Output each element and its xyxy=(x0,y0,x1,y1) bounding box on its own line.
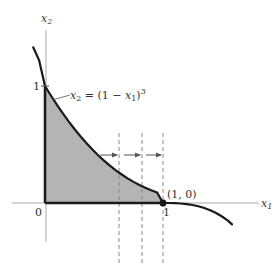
x-axis-label: x1 xyxy=(261,197,272,211)
y-axis-label: x2 xyxy=(41,12,52,26)
shaded-region xyxy=(45,86,163,203)
diagram: x2 x1 0 1 1 (1, 0) x2 = (1 − x1)3 xyxy=(0,0,280,274)
point-label: (1, 0) xyxy=(167,188,197,201)
x-tick-label: 1 xyxy=(163,206,170,219)
y-tick-label: 1 xyxy=(33,80,40,93)
origin-label: 0 xyxy=(35,206,42,219)
equation-leader xyxy=(52,95,70,100)
curve-equation-label: x2 = (1 − x1)3 xyxy=(70,87,146,103)
